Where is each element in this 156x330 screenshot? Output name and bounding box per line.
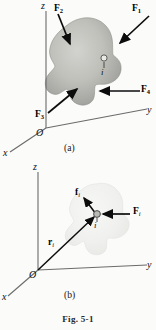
- force-arrow-f1: [120, 16, 149, 43]
- particle-marker-a: [101, 55, 107, 61]
- figure-panel-b: z y x O fi Fi ri i (b): [0, 162, 156, 310]
- origin-label-b: O: [29, 270, 36, 280]
- axis-label-x-b: x: [2, 292, 6, 302]
- vector-label-Fi: Fi: [133, 207, 141, 217]
- figure-container: z y x O F1 F2 F3 F4 i (a): [0, 0, 156, 330]
- origin-label-a: O: [36, 128, 43, 138]
- axis-label-x-a: x: [3, 148, 7, 158]
- panel-caption-b: (b): [64, 290, 75, 300]
- panel-a-graphic: [0, 0, 156, 162]
- panel-caption-a: (a): [64, 143, 75, 153]
- axis-line-y-a: [46, 109, 147, 128]
- figure-panel-a: z y x O F1 F2 F3 F4 i (a): [0, 0, 156, 162]
- panel-b-graphic: [0, 162, 156, 310]
- particle-label-b: i: [94, 221, 97, 230]
- vector-label-ri: ri: [48, 238, 54, 248]
- force-label-f2: F2: [54, 4, 63, 14]
- vector-label-fi: fi: [75, 188, 80, 198]
- force-label-f1: F1: [132, 4, 141, 14]
- force-label-f3: F3: [35, 110, 44, 120]
- figure-number-label: Fig. 5-1: [0, 314, 156, 330]
- axis-label-z-b: z: [33, 162, 37, 172]
- particle-label-a: i: [101, 68, 104, 77]
- axis-label-y-a: y: [147, 105, 151, 115]
- axis-label-y-b: y: [147, 260, 151, 270]
- axis-line-y-b: [38, 265, 147, 270]
- axis-label-z-a: z: [41, 1, 45, 11]
- particle-marker-b: [94, 211, 101, 218]
- force-label-f4: F4: [141, 85, 150, 95]
- body-blob-a: [45, 18, 121, 105]
